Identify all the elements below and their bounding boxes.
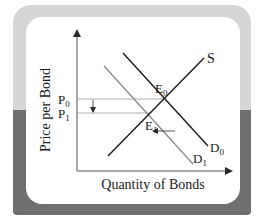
x-axis-label: Quantity of Bonds xyxy=(101,177,204,192)
y-axis-label: Price per Bond xyxy=(38,68,53,152)
supply-label: S xyxy=(207,51,215,66)
bond-market-diagram: S E0 E1 D0 D1 P0 P1 Price per Bond Quant… xyxy=(0,0,266,221)
supply-curve xyxy=(108,58,204,156)
e0-label: E0 xyxy=(155,81,168,98)
e1-label: E1 xyxy=(145,118,157,135)
d0-label: D0 xyxy=(210,140,224,157)
d1-label: D1 xyxy=(193,151,207,168)
diagram-stage: S E0 E1 D0 D1 P0 P1 Price per Bond Quant… xyxy=(0,0,266,221)
